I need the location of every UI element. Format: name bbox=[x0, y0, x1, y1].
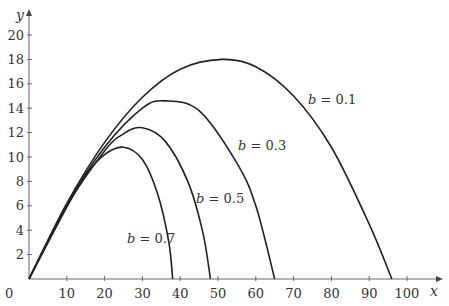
curve-labels: b = 0.1b = 0.3b = 0.5b = 0.7 bbox=[127, 92, 356, 246]
y-tick-label: 16 bbox=[7, 76, 24, 91]
curve-label: b = 0.7 bbox=[127, 231, 175, 246]
y-axis-arrow-icon bbox=[26, 9, 32, 16]
curve-label: b = 0.5 bbox=[196, 191, 244, 206]
y-axis-label: y bbox=[15, 7, 25, 23]
x-axis-label: x bbox=[430, 283, 438, 299]
x-tick-label: 0 bbox=[5, 286, 13, 301]
y-tick-label: 8 bbox=[16, 174, 24, 189]
curve-03 bbox=[29, 101, 275, 279]
y-tick-label: 6 bbox=[16, 198, 24, 213]
x-tick-label: 100 bbox=[395, 286, 420, 301]
x-axis-arrow-icon bbox=[436, 276, 443, 282]
curve-05 bbox=[29, 127, 210, 279]
curve-label: b = 0.1 bbox=[308, 92, 356, 107]
y-tick-label: 12 bbox=[7, 125, 24, 140]
y-tick-label: 2 bbox=[16, 247, 24, 262]
x-tick-label: 50 bbox=[210, 286, 227, 301]
y-tick-label: 18 bbox=[7, 52, 24, 67]
trajectory-chart: 01020304050607080901002468101214161820xy… bbox=[0, 0, 449, 306]
axes: 01020304050607080901002468101214161820xy bbox=[5, 7, 443, 301]
x-tick-label: 30 bbox=[134, 286, 151, 301]
x-tick-label: 90 bbox=[361, 286, 378, 301]
x-tick-label: 10 bbox=[59, 286, 76, 301]
y-tick-label: 20 bbox=[7, 28, 24, 43]
x-tick-label: 40 bbox=[172, 286, 189, 301]
curve-07 bbox=[29, 147, 173, 279]
x-tick-label: 80 bbox=[323, 286, 340, 301]
x-tick-label: 70 bbox=[285, 286, 302, 301]
x-tick-label: 60 bbox=[248, 286, 265, 301]
x-tick-label: 20 bbox=[96, 286, 113, 301]
y-tick-label: 14 bbox=[7, 101, 24, 116]
y-tick-label: 4 bbox=[16, 223, 24, 238]
y-tick-label: 10 bbox=[7, 150, 24, 165]
curve-label: b = 0.3 bbox=[238, 138, 286, 153]
